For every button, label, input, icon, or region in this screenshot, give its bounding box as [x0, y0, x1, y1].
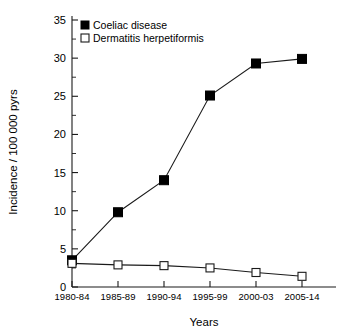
y-tick-label: 25 [54, 90, 66, 102]
data-point-coeliac-disease-2005-14 [298, 54, 307, 63]
series-line-dermatitis-herpetiformis [72, 263, 302, 276]
x-tick-label: 1990-94 [147, 291, 182, 302]
data-point-dermatitis-herpetiformis-1980-84 [68, 259, 76, 267]
y-tick-labels: 05101520253035 [54, 14, 66, 293]
y-axis-title: Incidence / 100 000 pyrs [7, 89, 19, 215]
x-tick-marks [72, 281, 302, 287]
data-point-dermatitis-herpetiformis-1990-94 [160, 262, 168, 270]
legend-label-coeliac-disease: Coeliac disease [93, 19, 167, 31]
data-point-dermatitis-herpetiformis-1985-89 [114, 261, 122, 269]
series-markers [68, 54, 307, 280]
chart-figure: 05101520253035 1980-841985-891990-941995… [0, 0, 347, 336]
data-point-dermatitis-herpetiformis-2000-03 [252, 269, 260, 277]
y-tick-label: 30 [54, 52, 66, 64]
y-tick-label: 35 [54, 14, 66, 26]
data-point-coeliac-disease-1985-89 [114, 208, 123, 217]
legend-marker-coeliac-disease [81, 21, 89, 29]
data-point-coeliac-disease-1995-99 [206, 91, 215, 100]
data-point-dermatitis-herpetiformis-1995-99 [206, 264, 214, 272]
x-axis-title: Years [190, 316, 219, 328]
x-tick-label: 1980-84 [55, 291, 90, 302]
y-tick-marks-minor [72, 39, 76, 268]
legend-label-dermatitis-herpetiformis: Dermatitis herpetiformis [93, 32, 204, 44]
series-lines [72, 59, 302, 276]
axis-group [72, 16, 336, 287]
y-tick-label: 5 [60, 243, 66, 255]
x-tick-label: 1985-89 [101, 291, 136, 302]
x-tick-label: 2000-03 [239, 291, 274, 302]
data-point-dermatitis-herpetiformis-2005-14 [298, 272, 306, 280]
x-tick-label: 1995-99 [193, 291, 228, 302]
data-point-coeliac-disease-1990-94 [160, 176, 169, 185]
line-chart: 05101520253035 1980-841985-891990-941995… [0, 0, 347, 336]
y-tick-label: 15 [54, 167, 66, 179]
x-tick-label: 2005-14 [285, 291, 320, 302]
series-line-coeliac-disease [72, 59, 302, 260]
chart-legend: Coeliac disease Dermatitis herpetiformis [81, 19, 204, 44]
y-tick-label: 20 [54, 128, 66, 140]
y-tick-label: 10 [54, 205, 66, 217]
legend-marker-dermatitis-herpetiformis [81, 34, 89, 42]
data-point-coeliac-disease-2000-03 [252, 59, 261, 68]
x-tick-labels: 1980-841985-891990-941995-992000-032005-… [55, 291, 320, 302]
